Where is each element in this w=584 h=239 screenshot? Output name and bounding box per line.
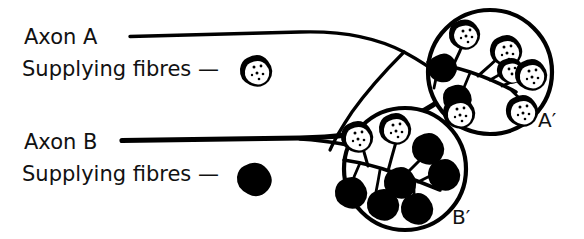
motor-unit-b-prime: B′ [335,108,471,230]
axon-b-fibres-label: Supplying fibres — [22,162,219,186]
unit-b-prime-label: B′ [452,205,471,229]
axon-a-fibres-label: Supplying fibres — [22,57,219,81]
reinnervation-diagram: A′ [0,0,584,239]
axon-b-legend-fibre [237,163,272,197]
axon-b-label: Axon B [24,130,97,154]
unit-a-prime-label: A′ [538,108,557,132]
motor-unit-a-prime: A′ [428,10,557,134]
axon-a-label: Axon A [24,25,98,49]
axon-a-legend-fibre [240,55,272,87]
